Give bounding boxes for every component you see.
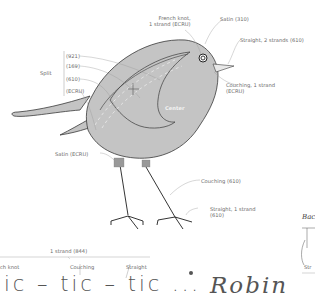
label-couching-ecru: Couching, 1 strand (ECRU) xyxy=(226,82,275,94)
label-satin-310: Satin (310) xyxy=(220,16,249,22)
label-straight-2-strands: Straight, 2 strands (610) xyxy=(240,37,304,43)
leg-satin-stripes xyxy=(114,158,150,167)
split-item-ecru: (ECRU) xyxy=(66,88,84,94)
bird-eye-icon xyxy=(199,54,207,62)
split-item-610: (610) xyxy=(66,76,80,82)
label-french-knot: French knot, 1 strand (ECRU) xyxy=(149,15,191,27)
lettering-tic-tic: ic – tic – tic ... xyxy=(4,272,201,296)
label-satin-ecru: Satin (ECRU) xyxy=(55,151,88,157)
bird-legs xyxy=(111,165,192,229)
robin-illustration xyxy=(0,0,315,299)
stitch-label-couching: Couching xyxy=(70,264,94,270)
label-couching-610: Couching (610) xyxy=(201,178,241,184)
bird-tail xyxy=(12,96,90,116)
label-split: Split xyxy=(40,70,52,76)
side-panel-label: Str xyxy=(304,264,311,270)
stitch-label-knot: ch knot xyxy=(0,264,19,270)
bird-beak xyxy=(213,64,234,72)
label-strand-844: 1 strand (844) xyxy=(50,248,87,254)
label-center: Center xyxy=(165,105,185,111)
side-panel-title: Bac xyxy=(302,214,315,220)
label-straight-1-strand: Straight, 1 strand (610) xyxy=(210,206,256,218)
split-item-169: (169) xyxy=(66,63,80,69)
lettering-robin: Robin xyxy=(210,272,288,298)
split-item-921: (921) xyxy=(66,53,80,59)
stitch-label-straight: Straight xyxy=(126,264,147,270)
